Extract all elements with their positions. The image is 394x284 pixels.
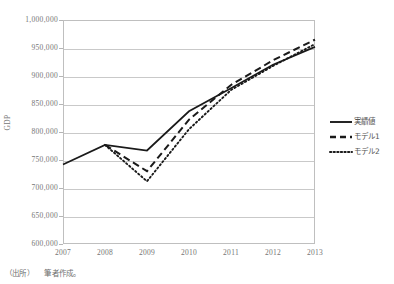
x-axis-tick-label: 2012 xyxy=(255,248,291,257)
legend-item[interactable]: 実績値 xyxy=(330,114,394,129)
caption-source-text: 筆者作成。 xyxy=(44,269,80,278)
x-axis-tick-label: 2008 xyxy=(87,248,123,257)
legend-item-label: 実績値 xyxy=(354,115,375,126)
y-axis-tick-label: 900,000 xyxy=(0,72,58,80)
x-axis-tick-label: 2007 xyxy=(45,248,81,257)
y-axis-tick-label: 700,000 xyxy=(0,184,58,192)
x-axis-tick-label: 2011 xyxy=(213,248,249,257)
y-axis-tick-label: 950,000 xyxy=(0,44,58,52)
series-line xyxy=(105,40,315,172)
chart-legend: 実績値モデル1モデル2 xyxy=(330,114,394,159)
y-axis-tick-label: 650,000 xyxy=(0,212,58,220)
legend-item[interactable]: モデル1 xyxy=(330,129,394,144)
x-axis-tick-label: 2010 xyxy=(171,248,207,257)
x-axis-tick-label: 2013 xyxy=(297,248,333,257)
legend-line-icon xyxy=(330,150,352,153)
legend-line-icon xyxy=(330,120,352,123)
y-axis-tick-label: 1,000,000 xyxy=(0,16,58,24)
legend-item[interactable]: モデル2 xyxy=(330,144,394,159)
y-axis-tick-label: 850,000 xyxy=(0,100,58,108)
chart-figure: GDP 1,000,000950,000900,000850,000800,00… xyxy=(0,0,394,284)
y-axis-tick-mark xyxy=(59,244,63,245)
x-axis-tick-label: 2009 xyxy=(129,248,165,257)
legend-item-label: モデル1 xyxy=(354,130,380,141)
figure-caption: （出所） 筆者作成。 xyxy=(5,267,80,278)
y-axis-tick-label: 750,000 xyxy=(0,156,58,164)
data-series-layer xyxy=(63,20,315,244)
y-axis-tick-label: 800,000 xyxy=(0,128,58,136)
caption-source-label: （出所） xyxy=(5,269,34,278)
legend-item-label: モデル2 xyxy=(354,145,380,156)
legend-line-icon xyxy=(330,135,352,138)
y-axis-tick-label: 600,000 xyxy=(0,240,58,248)
series-line xyxy=(105,44,315,181)
